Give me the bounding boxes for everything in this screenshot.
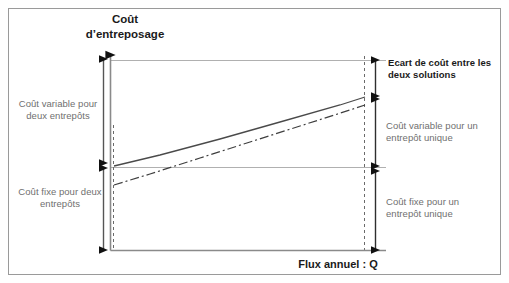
label-variable-cost-single-warehouse: Coût variable pour un entrepôt unique <box>386 120 502 144</box>
x-axis-label: Flux annuel : Q <box>268 258 408 270</box>
label-cost-gap: Ecart de coût entre les deux solutions <box>388 57 504 81</box>
chart-title: Coût d’entreposage <box>55 12 195 42</box>
series-line-two-warehouses <box>114 105 365 185</box>
chart-title-line1: Coût <box>55 12 195 27</box>
series-line-single-warehouse <box>114 97 365 166</box>
cost-comparison-figure: Coût d’entreposage Coût variable pour de… <box>0 0 509 283</box>
chart-title-line2: d’entreposage <box>55 27 195 42</box>
label-fixed-cost-single-warehouse: Coût fixe pour un entrepôt unique <box>386 196 496 220</box>
label-fixed-cost-two-warehouses: Coût fixe pour deux entrepôts <box>14 186 106 210</box>
label-variable-cost-two-warehouses: Coût variable pour deux entrepôts <box>14 98 102 122</box>
